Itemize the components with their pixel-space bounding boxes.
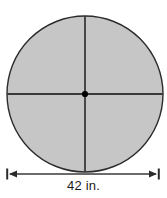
dimension-arrow-left-icon bbox=[9, 170, 17, 177]
center-dot-icon bbox=[82, 91, 88, 97]
dimension-arrow-right-icon bbox=[149, 170, 157, 177]
circle-diagram-figure: 42 in. bbox=[0, 0, 167, 198]
dimension-label: 42 in. bbox=[0, 178, 167, 193]
diagram-canvas bbox=[0, 0, 167, 198]
